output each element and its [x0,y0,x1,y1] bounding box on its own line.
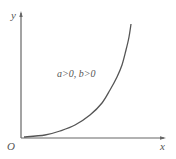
origin-label: O [7,141,15,152]
y-axis-label: y [11,10,16,21]
function-curve [24,24,131,137]
y-axis-arrow-icon [19,11,22,17]
x-axis-label: x [160,141,165,152]
function-graph: y O x a>0, b>0 [0,0,176,159]
graph-svg [0,0,176,159]
parameter-annotation: a>0, b>0 [57,69,96,79]
